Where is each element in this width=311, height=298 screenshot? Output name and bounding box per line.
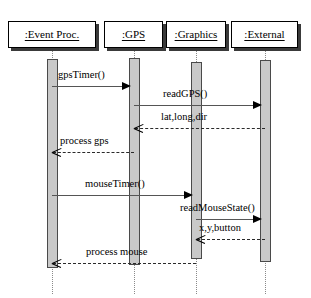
object-box-event-proc[interactable]: :Event Proc. xyxy=(8,21,96,48)
message-label: readMouseState() xyxy=(180,203,255,214)
object-box-external[interactable]: :External xyxy=(231,21,298,48)
object-label-graphics: :Graphics xyxy=(175,29,218,40)
activation-bar-event-proc xyxy=(47,59,58,268)
message-label: x,y,button xyxy=(199,223,241,234)
message-label: mouseTimer() xyxy=(85,179,145,190)
message-line xyxy=(197,239,265,240)
object-label-event-proc: :Event Proc. xyxy=(25,29,79,40)
message-label: readGPS() xyxy=(163,89,207,100)
message-line xyxy=(52,86,130,87)
arrowhead-left-icon xyxy=(52,147,61,157)
message-label: process mouse xyxy=(86,247,148,258)
message-line xyxy=(53,263,196,264)
arrowhead-left-icon xyxy=(196,234,205,244)
arrowhead-right-icon xyxy=(184,191,193,199)
arrowhead-right-icon xyxy=(253,215,262,223)
activation-bar-external xyxy=(260,60,271,262)
arrowhead-right-icon xyxy=(253,101,262,109)
arrowhead-left-icon xyxy=(52,258,61,268)
message-label: process gps xyxy=(60,136,109,147)
message-line xyxy=(135,128,265,129)
message-line xyxy=(52,195,192,196)
message-label: lat,long,dir xyxy=(161,112,207,123)
object-box-graphics[interactable]: :Graphics xyxy=(166,21,226,48)
sequence-diagram-canvas: gpsTimer()readGPS()lat,long,dirprocess g… xyxy=(0,0,311,298)
message-label: gpsTimer() xyxy=(58,70,105,81)
object-label-gps: :GPS xyxy=(122,29,145,40)
object-box-gps[interactable]: :GPS xyxy=(104,21,163,48)
message-line xyxy=(196,219,261,220)
message-line xyxy=(134,105,261,106)
message-line xyxy=(53,152,134,153)
object-label-external: :External xyxy=(244,29,284,40)
arrowhead-right-icon xyxy=(122,82,131,90)
arrowhead-left-icon xyxy=(134,123,143,133)
